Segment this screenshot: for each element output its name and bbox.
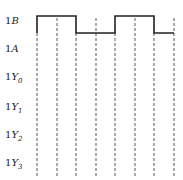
time-marker-lines bbox=[37, 18, 174, 176]
timing-diagram bbox=[0, 0, 183, 180]
waveform-1B bbox=[37, 16, 174, 33]
